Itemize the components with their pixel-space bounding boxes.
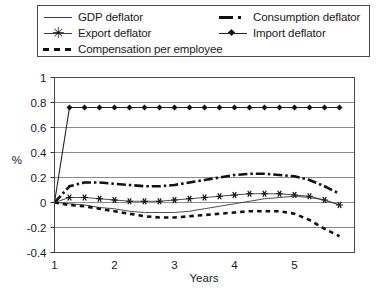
- data-point-marker: [307, 105, 313, 111]
- data-point-marker: [246, 191, 253, 197]
- chart-y-axis-ticks: [51, 78, 55, 253]
- data-point-marker: [81, 195, 88, 201]
- data-point-marker: [156, 198, 163, 204]
- data-point-marker: [97, 105, 103, 111]
- chart-series-layer: [55, 105, 343, 237]
- line-solid-thin-icon: [43, 10, 73, 24]
- asterisk-marker-glyph: ✳: [52, 26, 65, 40]
- data-point-marker: [232, 105, 238, 111]
- legend-item-compensation-per-employee: Compensation per employee: [43, 41, 223, 57]
- legend-item-consumption-deflator: Consumption deflator: [218, 9, 360, 25]
- line-dashed-thick-icon: [43, 42, 73, 56]
- data-point-marker: [262, 105, 268, 111]
- data-point-marker: [322, 105, 328, 111]
- legend-label: Export deflator: [78, 26, 151, 40]
- line-chart-svg: 10.80.60.40.20-0.2-0.4 12345 % Years: [0, 60, 386, 288]
- series-line: [55, 203, 340, 237]
- y-tick-label: 0.2: [31, 172, 47, 184]
- x-tick-label: 5: [291, 259, 297, 271]
- line-diamond-marker-icon: [218, 26, 248, 40]
- data-point-marker: [66, 195, 73, 201]
- y-tick-label: -0.2: [27, 222, 47, 234]
- y-tick-label: -0.4: [27, 247, 47, 259]
- data-point-marker: [172, 105, 178, 111]
- x-tick-label: 3: [171, 259, 177, 271]
- data-point-marker: [157, 105, 163, 111]
- data-point-marker: [141, 198, 148, 204]
- data-point-marker: [127, 105, 133, 111]
- diamond-marker-glyph: [228, 29, 235, 36]
- y-tick-label: 0.8: [31, 97, 47, 109]
- data-point-marker: [337, 105, 343, 111]
- data-point-marker: [292, 105, 298, 111]
- data-point-marker: [187, 105, 193, 111]
- data-point-marker: [112, 105, 118, 111]
- legend-label: GDP deflator: [78, 10, 143, 24]
- data-point-marker: [277, 105, 283, 111]
- y-tick-label: 0: [40, 197, 46, 209]
- data-point-marker: [186, 196, 193, 202]
- data-point-marker: [216, 193, 223, 199]
- series-import-deflator: [55, 105, 343, 203]
- series-export-deflator: [55, 191, 343, 208]
- x-tick-label: 2: [111, 259, 117, 271]
- chart-plot-area: 10.80.60.40.20-0.2-0.4 12345 % Years: [0, 60, 386, 288]
- x-axis-title: Years: [190, 272, 219, 284]
- chart-legend: GDP deflator Consumption deflator ✳ Expo…: [37, 5, 370, 57]
- data-point-marker: [291, 192, 298, 198]
- data-point-marker: [231, 192, 238, 198]
- legend-item-export-deflator: ✳ Export deflator: [43, 25, 151, 41]
- x-tick-label: 4: [231, 259, 238, 271]
- legend-label: Consumption deflator: [253, 10, 360, 24]
- series-compensation-per-employee: [55, 203, 340, 237]
- chart-x-axis-labels: 12345: [51, 259, 297, 271]
- y-tick-label: 0.4: [31, 147, 48, 159]
- legend-item-import-deflator: Import deflator: [218, 25, 326, 41]
- chart-frame: [55, 78, 355, 253]
- data-point-marker: [171, 197, 178, 203]
- data-point-marker: [276, 191, 283, 197]
- y-tick-label: 1: [40, 72, 46, 84]
- data-point-marker: [247, 105, 253, 111]
- data-point-marker: [82, 105, 88, 111]
- line-dash-dot-icon: [218, 10, 248, 24]
- line-asterisk-marker-icon: ✳: [43, 26, 73, 40]
- data-point-marker: [67, 105, 73, 111]
- data-point-marker: [126, 198, 133, 204]
- y-tick-label: 0.6: [31, 122, 47, 134]
- data-point-marker: [201, 195, 208, 201]
- data-point-marker: [261, 191, 268, 197]
- data-point-marker: [217, 105, 223, 111]
- data-point-marker: [96, 196, 103, 202]
- series-line: [55, 108, 340, 203]
- legend-label: Import deflator: [253, 26, 326, 40]
- data-point-marker: [202, 105, 208, 111]
- x-tick-label: 1: [51, 259, 57, 271]
- data-point-marker: [142, 105, 148, 111]
- legend-label: Compensation per employee: [78, 42, 223, 56]
- chart-y-axis-labels: 10.80.60.40.20-0.2-0.4: [27, 72, 47, 259]
- legend-item-gdp-deflator: GDP deflator: [43, 9, 143, 25]
- data-point-marker: [111, 197, 118, 203]
- y-axis-title: %: [12, 154, 22, 166]
